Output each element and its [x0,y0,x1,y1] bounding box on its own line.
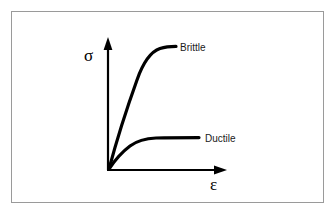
ductile-curve-label: Ductile [205,134,236,144]
stress-strain-figure: σ ε Brittle Ductile [0,0,336,218]
x-axis-label-epsilon: ε [210,176,217,193]
plot-canvas [0,0,336,218]
brittle-curve-label: Brittle [180,43,206,53]
brittle-curve [109,46,176,169]
ductile-curve [109,138,199,169]
y-axis-label-sigma: σ [84,47,93,64]
x-axis-arrow-icon [214,166,227,175]
y-axis-arrow-icon [104,37,113,50]
